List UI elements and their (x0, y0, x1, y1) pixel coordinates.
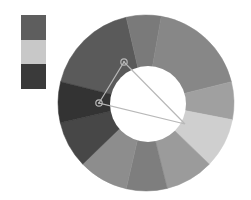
color-handle-dot-icon (123, 61, 125, 63)
color-wheel[interactable] (0, 0, 251, 200)
wheel-center-hole (110, 66, 186, 142)
color-handle-dot-icon (98, 102, 100, 104)
